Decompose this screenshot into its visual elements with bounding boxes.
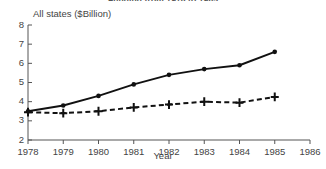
- y-tick-label: 8: [2, 19, 24, 30]
- data-point-marker: [200, 97, 208, 106]
- y-tick-label: 7: [2, 38, 24, 49]
- data-point-marker: [237, 63, 242, 68]
- axes: [28, 25, 310, 144]
- data-point-marker: [59, 109, 67, 118]
- y-tick-label: 5: [2, 76, 24, 87]
- data-point-marker: [165, 100, 173, 109]
- chart-figure: Funding from 1978 to 1985 All states ($B…: [0, 0, 326, 169]
- data-point-marker: [131, 82, 136, 87]
- plot-area: [0, 0, 326, 169]
- data-point-marker: [236, 98, 244, 107]
- data-point-marker: [61, 103, 66, 108]
- x-axis-label: Year: [0, 150, 326, 161]
- data-point-marker: [167, 73, 172, 78]
- data-point-marker: [96, 94, 101, 99]
- y-tick-label: 3: [2, 114, 24, 125]
- data-point-marker: [271, 92, 279, 101]
- data-point-marker: [130, 103, 138, 112]
- y-tick-label: 6: [2, 57, 24, 68]
- data-point-marker: [24, 108, 32, 117]
- y-tick-label: 4: [2, 95, 24, 106]
- data-point-marker: [95, 107, 103, 116]
- data-point-marker: [202, 67, 207, 72]
- axis-spines: [28, 25, 310, 140]
- data-series: [24, 50, 279, 118]
- y-tick-label: 2: [2, 134, 24, 145]
- data-point-marker: [272, 50, 277, 55]
